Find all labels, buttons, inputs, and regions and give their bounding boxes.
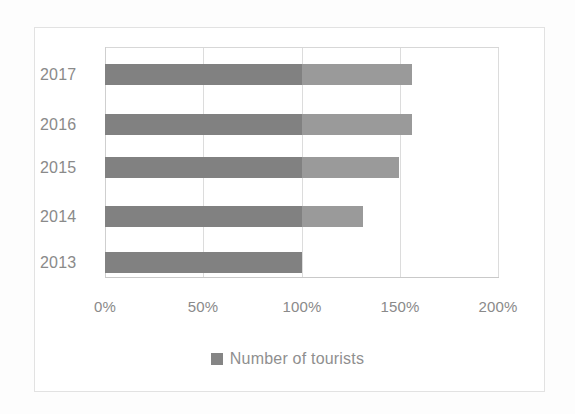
bar-tail-2014 xyxy=(302,206,363,227)
x-axis-label-150pct: 150% xyxy=(365,298,435,315)
y-axis-label-2017: 2017 xyxy=(40,67,98,83)
y-axis-label-2015: 2015 xyxy=(40,160,98,176)
bar-2016 xyxy=(105,114,412,135)
bar-2017 xyxy=(105,64,412,85)
legend-label: Number of tourists xyxy=(230,350,364,368)
bar-2014 xyxy=(105,206,363,227)
x-axis-label-0pct: 0% xyxy=(70,298,140,315)
chart-legend: Number of tourists xyxy=(0,350,575,368)
x-axis-label-200pct: 200% xyxy=(463,298,533,315)
axis-line-bottom xyxy=(105,277,499,278)
x-axis-label-50pct: 50% xyxy=(168,298,238,315)
y-axis-label-2013: 2013 xyxy=(40,255,98,271)
gridline-200pct xyxy=(498,47,499,277)
x-axis-label-100pct: 100% xyxy=(267,298,337,315)
bar-2015 xyxy=(105,157,399,178)
legend-swatch-icon xyxy=(211,353,223,365)
y-axis-label-2014: 2014 xyxy=(40,209,98,225)
bar-2013 xyxy=(105,252,302,273)
bar-chart: 20172016201520142013 0%50%100%150%200% N… xyxy=(0,0,575,414)
bar-tail-2017 xyxy=(302,64,412,85)
y-axis-label-2016: 2016 xyxy=(40,117,98,133)
bar-tail-2015 xyxy=(302,157,399,178)
axis-line-top xyxy=(105,47,499,48)
bar-tail-2016 xyxy=(302,114,412,135)
